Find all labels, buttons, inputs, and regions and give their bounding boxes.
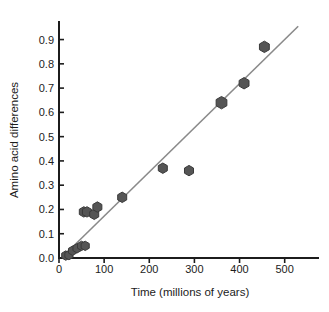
y-tick-label: 0.8: [39, 58, 54, 70]
data-point-marker: [259, 41, 269, 52]
x-tick-label: 0: [56, 263, 62, 275]
y-tick-label: 0.4: [39, 155, 54, 167]
y-axis-title: Amino acid differences: [8, 82, 20, 198]
y-tick-label: 0.3: [39, 179, 54, 191]
y-tick-label: 0.5: [39, 131, 54, 143]
x-tick-label: 200: [140, 263, 158, 275]
data-point-marker: [239, 78, 249, 89]
data-point-marker: [81, 241, 89, 250]
plot-canvas: 0.00.10.20.30.40.50.60.70.80.9 010020030…: [0, 0, 329, 312]
x-tick-label: 100: [95, 263, 113, 275]
x-tick-label: 500: [276, 263, 294, 275]
y-axis-tick-labels: 0.00.10.20.30.40.50.60.70.80.9: [39, 34, 54, 264]
data-point-marker: [93, 202, 102, 212]
y-tick-label: 0.7: [39, 82, 54, 94]
x-tick-label: 400: [230, 263, 248, 275]
data-point-marker: [118, 192, 127, 202]
data-point-marker: [184, 165, 193, 175]
x-tick-label: 300: [185, 263, 203, 275]
y-tick-label: 0.6: [39, 106, 54, 118]
trend-line: [63, 26, 299, 257]
data-point-marker: [158, 163, 167, 173]
y-tick-label: 0.9: [39, 34, 54, 46]
amino-acid-divergence-scatter-chart: 0.00.10.20.30.40.50.60.70.80.9 010020030…: [0, 0, 329, 312]
data-point-marker: [216, 96, 227, 108]
y-tick-label: 0.1: [39, 228, 54, 240]
x-axis-tick-labels: 0100200300400500: [56, 263, 294, 275]
x-axis-title: Time (millions of years): [131, 286, 250, 298]
y-tick-label: 0.0: [39, 252, 54, 264]
y-tick-label: 0.2: [39, 203, 54, 215]
